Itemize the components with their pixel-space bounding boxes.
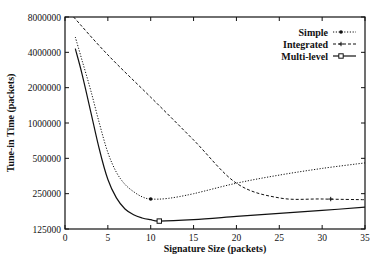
y-tick-label: 1000000 xyxy=(28,119,62,129)
y-tick-label: 8000000 xyxy=(28,13,62,23)
y-tick-label: 500000 xyxy=(33,154,62,164)
series-simple xyxy=(75,37,365,201)
series-line xyxy=(75,49,365,222)
y-tick-label: 4000000 xyxy=(28,48,62,58)
x-tick-label: 5 xyxy=(105,233,110,243)
legend-label: Simple xyxy=(299,27,329,38)
square-marker-icon xyxy=(339,54,343,58)
legend-label: Integrated xyxy=(283,39,328,50)
y-tick-label: 250000 xyxy=(33,189,62,199)
line-chart: 1250002500005000001000000200000040000008… xyxy=(0,0,381,267)
dot-marker-icon xyxy=(339,30,343,34)
y-axis-title: Tune-in Time (packets) xyxy=(5,74,17,173)
x-tick-label: 15 xyxy=(189,233,199,243)
x-tick-label: 20 xyxy=(232,233,242,243)
legend: SimpleIntegratedMulti-level xyxy=(281,27,356,62)
x-tick-label: 35 xyxy=(360,233,370,243)
y-tick-label: 125000 xyxy=(33,225,62,235)
legend-label: Multi-level xyxy=(281,51,328,62)
x-tick-label: 10 xyxy=(146,233,156,243)
series-multi-level xyxy=(75,49,365,224)
square-marker-icon xyxy=(157,219,161,223)
y-tick-label: 2000000 xyxy=(28,83,62,93)
x-axis-title: Signature Size (packets) xyxy=(164,243,267,255)
dot-marker-icon xyxy=(149,197,153,201)
x-tick-label: 30 xyxy=(317,233,327,243)
x-tick-label: 0 xyxy=(63,233,68,243)
x-tick-label: 25 xyxy=(275,233,285,243)
